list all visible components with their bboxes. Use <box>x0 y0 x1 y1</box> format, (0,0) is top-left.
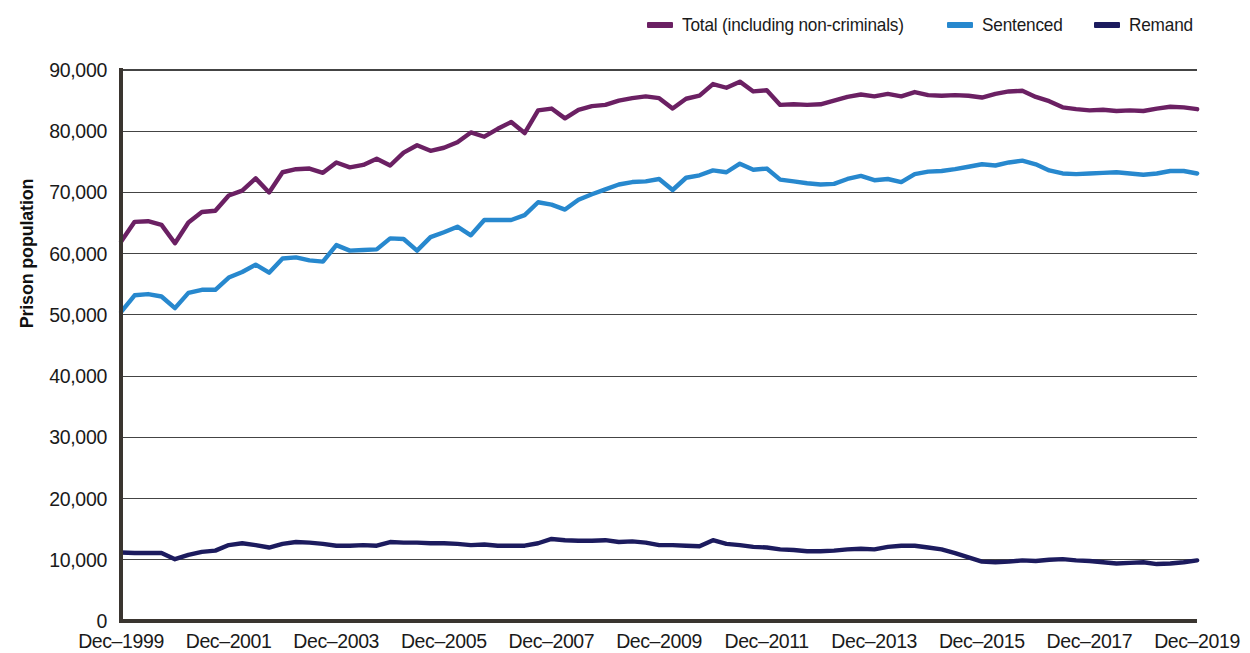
y-tick-label: 40,000 <box>49 365 107 387</box>
x-tick-label: Dec–1999 <box>78 630 164 652</box>
y-tick-label: 80,000 <box>49 120 107 142</box>
gridlines <box>121 70 1197 560</box>
x-tick-labels: Dec–1999Dec–2001Dec–2003Dec–2005Dec–2007… <box>78 630 1240 652</box>
y-tick-labels: 010,00020,00030,00040,00050,00060,00070,… <box>49 59 107 632</box>
x-tick-label: Dec–2013 <box>831 630 917 652</box>
chart-svg: 010,00020,00030,00040,00050,00060,00070,… <box>0 0 1250 653</box>
y-tick-label: 90,000 <box>49 59 107 81</box>
x-tick-label: Dec–2007 <box>509 630 595 652</box>
x-tick-label: Dec–2011 <box>724 630 808 652</box>
x-tick-label: Dec–2019 <box>1154 630 1240 652</box>
y-tick-label: 60,000 <box>49 243 107 265</box>
x-tick-label: Dec–2015 <box>939 630 1025 652</box>
y-tick-label: 20,000 <box>49 488 107 510</box>
data-series <box>121 82 1197 564</box>
prison-population-line-chart: Total (including non-criminals) Sentence… <box>0 0 1250 653</box>
x-tick-label: Dec–2017 <box>1047 630 1133 652</box>
x-tick-label: Dec–2005 <box>401 630 487 652</box>
series-line-sentenced <box>121 161 1197 312</box>
x-tick-label: Dec–2009 <box>616 630 702 652</box>
y-tick-label: 30,000 <box>49 426 107 448</box>
y-tick-label: 50,000 <box>49 304 107 326</box>
x-tick-label: Dec–2001 <box>186 630 272 652</box>
x-tick-label: Dec–2003 <box>293 630 379 652</box>
y-tick-label: 70,000 <box>49 181 107 203</box>
axis-lines <box>119 68 1197 621</box>
plot-area: 010,00020,00030,00040,00050,00060,00070,… <box>0 0 1250 653</box>
y-tick-label: 10,000 <box>49 549 107 571</box>
y-tick-label: 0 <box>96 610 107 632</box>
